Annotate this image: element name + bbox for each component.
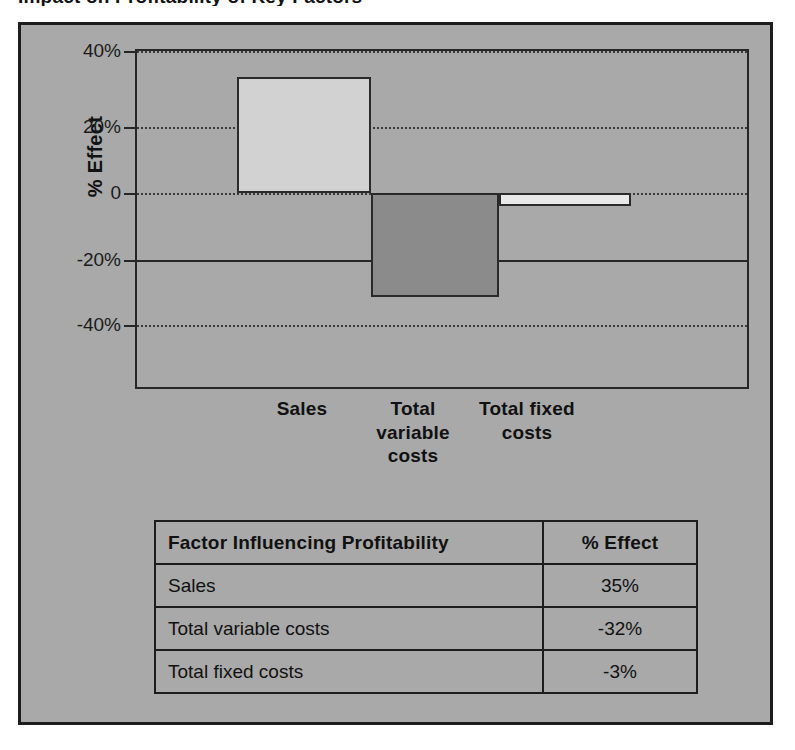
table-cell-effect: 35% [543,564,697,607]
ytick-minus20 [124,260,137,262]
table-row: Total variable costs -32% [155,607,697,650]
y-axis-title: % Effect [84,77,107,237]
ytick-label-20: 20% [83,116,121,138]
data-table: Factor Influencing Profitability % Effec… [154,520,698,694]
ytick-label-zero: 0 [110,182,121,204]
table-header-row: Factor Influencing Profitability % Effec… [155,521,697,564]
figure-panel: % Effect 40% 20% 0 -20% -40% Sales [18,22,773,725]
bar-sales [237,77,371,193]
gridline-40 [137,51,747,53]
plot-area: 40% 20% 0 -20% -40% [135,49,749,389]
page-title: Impact on Profitability of Key Factors [18,0,758,6]
table-header-effect: % Effect [543,521,697,564]
ytick-20 [124,127,137,129]
ytick-40 [124,51,137,53]
bar-total-variable-costs [371,193,499,297]
table-cell-factor: Sales [155,564,543,607]
x-axis-label-total-fixed-costs: Total fixed costs [467,397,587,444]
ytick-label-minus40: -40% [77,314,121,336]
ytick-label-40: 40% [83,40,121,62]
gridline-minus40 [137,325,747,327]
table-cell-effect: -32% [543,607,697,650]
ytick-minus40 [124,325,137,327]
table-row: Sales 35% [155,564,697,607]
bar-total-fixed-costs [499,193,631,206]
table-cell-effect: -3% [543,650,697,693]
x-axis-category-labels: Sales Total variable costs Total fixed c… [135,397,749,493]
ytick-label-minus20: -20% [77,249,121,271]
table-header-factor: Factor Influencing Profitability [155,521,543,564]
bar-chart: % Effect 40% 20% 0 -20% -40% Sales [21,25,776,495]
table-cell-factor: Total fixed costs [155,650,543,693]
table-cell-factor: Total variable costs [155,607,543,650]
ytick-zero [124,193,137,195]
gridline-20 [137,127,747,129]
x-axis-label-total-variable-costs: Total variable costs [363,397,463,468]
x-axis-label-sales: Sales [245,397,359,421]
table-row: Total fixed costs -3% [155,650,697,693]
data-table-container: Factor Influencing Profitability % Effec… [154,520,644,693]
